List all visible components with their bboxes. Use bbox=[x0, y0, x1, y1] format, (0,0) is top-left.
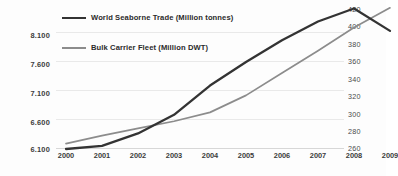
x-tick-2006: 2006 bbox=[274, 152, 290, 159]
right-y-tick: 300 bbox=[348, 111, 361, 118]
x-tick-2002: 2002 bbox=[130, 152, 146, 159]
left-y-tick: 7.600 bbox=[31, 61, 51, 68]
x-tick-2008: 2008 bbox=[346, 152, 362, 159]
left-y-tick: 6.600 bbox=[31, 119, 51, 126]
x-tick-2005: 2005 bbox=[238, 152, 254, 159]
chart-legend: World Seaborne Trade (Million tonnes) Bu… bbox=[62, 13, 282, 73]
legend-label: Bulk Carrier Fleet (Million DWT) bbox=[91, 44, 208, 52]
right-y-tick: 340 bbox=[348, 76, 361, 83]
right-y-tick: 320 bbox=[348, 93, 361, 100]
right-y-tick: 280 bbox=[348, 128, 361, 135]
right-y-tick: 380 bbox=[348, 41, 361, 48]
left-y-tick: 8.100 bbox=[31, 32, 51, 39]
x-tick-2000: 2000 bbox=[58, 152, 74, 159]
x-tick-2007: 2007 bbox=[310, 152, 326, 159]
x-tick-2009: 2009 bbox=[382, 152, 398, 159]
legend-item-bulk-carrier-fleet: Bulk Carrier Fleet (Million DWT) bbox=[62, 43, 282, 53]
legend-swatch-dark-line-icon bbox=[62, 17, 86, 20]
left-y-tick: 6.100 bbox=[31, 146, 51, 153]
x-tick-2001: 2001 bbox=[94, 152, 110, 159]
left-y-axis: 8.100 7.600 7.100 6.600 6.100 bbox=[0, 6, 50, 149]
legend-label: World Seaborne Trade (Million tonnes) bbox=[91, 14, 233, 22]
left-y-tick: 7.100 bbox=[31, 90, 51, 97]
right-y-tick: 360 bbox=[348, 58, 361, 65]
x-tick-2004: 2004 bbox=[202, 152, 218, 159]
legend-item-world-seaborne-trade: World Seaborne Trade (Million tonnes) bbox=[62, 13, 282, 23]
x-axis: 2000 2001 2002 2003 2004 2005 2006 2007 … bbox=[56, 150, 344, 170]
legend-swatch-light-line-icon bbox=[62, 47, 86, 49]
x-tick-2003: 2003 bbox=[166, 152, 182, 159]
